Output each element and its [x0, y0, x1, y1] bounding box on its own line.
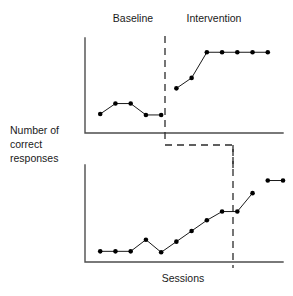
data-point	[174, 86, 179, 91]
data-point	[235, 50, 240, 55]
y-axis-label-line-3: responses	[10, 152, 58, 164]
data-point	[159, 113, 164, 118]
data-point	[113, 101, 118, 106]
data-point	[159, 250, 164, 255]
bottom-panel-axes	[85, 165, 283, 262]
data-point	[144, 237, 149, 242]
x-axis-label: Sessions	[162, 272, 205, 284]
top-panel-intervention-points	[174, 50, 270, 91]
data-point	[235, 209, 240, 214]
data-point	[189, 76, 194, 81]
data-point	[189, 229, 194, 234]
top-panel	[85, 36, 283, 140]
data-point	[113, 249, 118, 254]
phase-line-connector	[165, 145, 233, 170]
top-panel-intervention-line	[176, 52, 267, 88]
data-point	[265, 50, 270, 55]
data-point	[250, 50, 255, 55]
phase-label-intervention: Intervention	[187, 12, 242, 24]
data-point	[144, 113, 149, 118]
phase-label-baseline: Baseline	[113, 12, 153, 24]
y-axis-label-line-1: Number of	[10, 124, 59, 136]
bottom-panel	[85, 145, 285, 268]
data-point	[265, 178, 270, 183]
bottom-panel-baseline-points	[98, 191, 255, 255]
data-point	[281, 178, 286, 183]
data-point	[128, 249, 133, 254]
data-point	[250, 191, 255, 196]
data-point	[128, 101, 133, 106]
data-point	[98, 112, 103, 117]
data-point	[220, 50, 225, 55]
data-point	[98, 249, 103, 254]
data-point	[174, 239, 179, 244]
data-point	[205, 50, 210, 55]
multiple-baseline-chart: Baseline Intervention Number of correct …	[0, 0, 293, 296]
y-axis-label-line-2: correct	[10, 138, 42, 150]
data-point	[220, 209, 225, 214]
data-point	[205, 218, 210, 223]
